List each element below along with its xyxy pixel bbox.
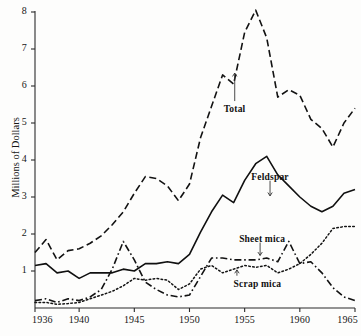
series-label-total: Total <box>224 104 246 114</box>
chart-axes <box>31 11 355 312</box>
y-tick-label: 6 <box>13 79 27 90</box>
y-tick-label: 1 <box>13 264 27 275</box>
y-tick-label: 2 <box>13 227 27 238</box>
x-tick-label: 1950 <box>169 314 209 325</box>
series-line-total <box>35 10 355 260</box>
y-tick-label: 7 <box>13 42 27 53</box>
series-label-scrap-mica: Scrap mica <box>234 279 282 289</box>
y-tick-label: 8 <box>13 5 27 16</box>
series-line-feldspar <box>35 156 355 278</box>
x-tick-label: 1960 <box>280 314 320 325</box>
x-tick-label: 1955 <box>225 314 265 325</box>
line-chart-canvas <box>0 0 361 336</box>
chart-series-layer <box>35 10 355 304</box>
y-axis-title: Millions of Dollars <box>10 98 21 218</box>
series-line-scrap-mica <box>35 227 355 305</box>
x-tick-label: 1945 <box>114 314 154 325</box>
series-label-sheet-mica: Sheet mica <box>239 234 285 244</box>
x-tick-label: 1940 <box>59 314 99 325</box>
chart-figure: 123456781936194019451950195519601965 Mil… <box>0 0 361 336</box>
series-label-feldspar: Feldspar <box>251 172 289 182</box>
series-line-sheet-mica <box>35 241 355 302</box>
x-tick-label: 1965 <box>318 314 358 325</box>
